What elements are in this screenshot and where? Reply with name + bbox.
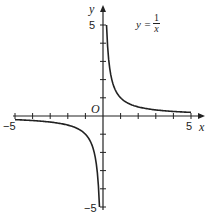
x-axis-label: x [199, 121, 204, 133]
equation-fraction: 1 x [153, 13, 160, 34]
curve-negative-branch [15, 120, 99, 207]
x-max-tick-label: 5 [186, 121, 192, 132]
y-axis-arrow-icon [100, 5, 106, 12]
origin-label: O [91, 103, 100, 115]
curve-positive-branch [107, 25, 191, 112]
y-axis-label: y [89, 3, 94, 15]
x-min-tick-label: −5 [3, 121, 16, 132]
equation-lhs: y = [136, 18, 151, 30]
equation-denominator: x [154, 24, 158, 34]
equation-label: y = 1 x [136, 13, 160, 34]
y-min-tick-label: −5 [84, 203, 97, 214]
y-max-tick-label: 5 [89, 20, 95, 31]
x-axis-arrow-icon [198, 113, 205, 119]
plot-area [0, 0, 211, 219]
